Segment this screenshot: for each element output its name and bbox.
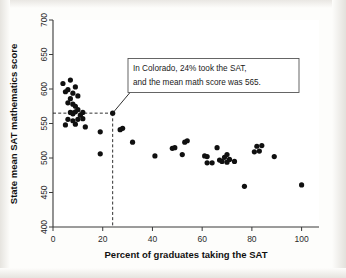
x-axis-ticks — [53, 227, 302, 231]
data-point — [75, 93, 80, 98]
data-point — [120, 126, 125, 131]
data-point — [257, 149, 262, 154]
data-point — [224, 152, 229, 157]
data-point — [83, 124, 88, 129]
y-axis-title: State mean SAT mathematics score — [8, 44, 19, 204]
x-axis-tick-labels: 020406080100 — [51, 234, 309, 244]
data-point — [252, 149, 257, 154]
figure-container: 400450500550600650700 020406080100 In Co… — [0, 0, 346, 278]
data-point — [98, 151, 103, 156]
x-tick-label-0: 0 — [51, 234, 56, 244]
data-point — [227, 157, 232, 162]
data-point — [80, 116, 85, 121]
data-point — [242, 184, 247, 189]
x-tick-label-20: 20 — [98, 234, 108, 244]
data-point — [254, 144, 259, 149]
scatter-plot: 400450500550600650700 020406080100 In Co… — [0, 0, 346, 278]
y-axis-tick-labels: 400450500550600650700 — [39, 13, 49, 234]
data-point — [210, 160, 215, 165]
data-point — [214, 145, 219, 150]
y-tick-label-700: 700 — [39, 13, 49, 27]
data-point — [68, 77, 73, 82]
data-point — [75, 117, 80, 122]
x-tick-label-40: 40 — [148, 234, 158, 244]
data-point — [98, 129, 103, 134]
data-point — [73, 122, 78, 127]
y-tick-label-500: 500 — [39, 151, 49, 165]
y-tick-label-450: 450 — [39, 185, 49, 199]
data-point — [185, 138, 190, 143]
y-tick-label-400: 400 — [39, 220, 49, 234]
y-tick-label-600: 600 — [39, 82, 49, 96]
data-point — [80, 110, 85, 115]
data-point — [70, 91, 75, 96]
data-point — [205, 154, 210, 159]
data-point — [65, 87, 70, 92]
data-point — [75, 107, 80, 112]
data-point — [65, 117, 70, 122]
y-axis-ticks — [49, 20, 53, 227]
data-point — [232, 159, 237, 164]
data-point — [152, 153, 157, 158]
annotation-line-2: and the mean math score was 565. — [133, 78, 261, 87]
data-point — [65, 100, 70, 105]
annotation-line-1: In Colorado, 24% took the SAT, — [133, 64, 247, 73]
data-point — [130, 140, 135, 145]
data-point — [60, 81, 65, 86]
y-tick-label-650: 650 — [39, 47, 49, 61]
data-point — [205, 160, 210, 165]
x-tick-label-60: 60 — [197, 234, 207, 244]
data-point — [259, 143, 264, 148]
data-point — [172, 145, 177, 150]
y-tick-label-550: 550 — [39, 116, 49, 130]
data-point — [73, 84, 78, 89]
x-tick-label-100: 100 — [295, 234, 309, 244]
data-point — [272, 154, 277, 159]
x-axis-title: Percent of graduates taking the SAT — [105, 249, 268, 260]
plot-panel — [53, 20, 319, 227]
data-point — [299, 182, 304, 187]
data-point — [63, 122, 68, 127]
data-point — [180, 152, 185, 157]
x-tick-label-80: 80 — [247, 234, 257, 244]
